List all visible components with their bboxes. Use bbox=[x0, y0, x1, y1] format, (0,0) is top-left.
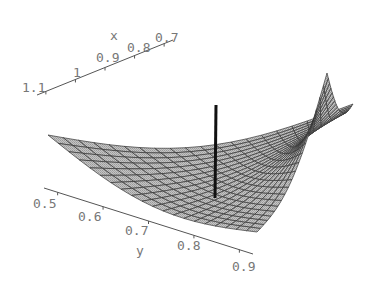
x-tick-label: 0.7 bbox=[155, 30, 178, 45]
vertical-marker-line bbox=[215, 105, 216, 198]
y-axis-label: y bbox=[136, 243, 144, 258]
x-axis: 1.110.90.80.7 x bbox=[22, 28, 178, 95]
y-tick-label: 0.5 bbox=[33, 196, 56, 211]
x-tick-label: 1.1 bbox=[22, 80, 45, 95]
y-tick-label: 0.8 bbox=[177, 238, 200, 253]
x-tick-label: 1 bbox=[73, 65, 81, 80]
y-tick-label: 0.9 bbox=[232, 259, 255, 274]
y-tick-label: 0.7 bbox=[125, 223, 148, 238]
x-axis-label: x bbox=[110, 28, 118, 43]
y-tick-label: 0.6 bbox=[78, 209, 101, 224]
x-tick-label: 0.8 bbox=[127, 40, 150, 55]
x-tick-label: 0.9 bbox=[96, 50, 119, 65]
surface-plot: 1.110.90.80.7 x 0.50.60.70.80.9 y bbox=[0, 0, 374, 286]
